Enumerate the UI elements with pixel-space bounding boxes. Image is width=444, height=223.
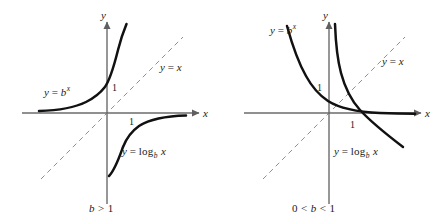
label-logarithm-fn: log	[351, 145, 366, 157]
y-axis-tick-one: 1	[317, 83, 322, 93]
panel-left-graph	[0, 0, 222, 223]
panel-caption-suffix: < 1	[317, 202, 336, 214]
panel-caption-relation: > 1	[95, 202, 114, 214]
label-logarithm: y=logbx	[122, 146, 166, 157]
label-logarithm-arg: x	[370, 145, 378, 157]
label-logarithm-op: =	[339, 145, 351, 157]
y-axis-label: y	[323, 10, 328, 21]
x-axis-tick-one: 1	[129, 117, 134, 127]
label-identity-rhs: x	[177, 61, 182, 73]
panel-caption: 0 < b < 1	[292, 203, 336, 214]
label-identity: y=x	[160, 62, 182, 73]
x-axis-tick-one: 1	[350, 120, 355, 130]
x-axis-label: x	[203, 108, 208, 119]
label-exponential-op: =	[275, 24, 287, 36]
panel-caption: b > 1	[89, 203, 114, 214]
y-axis-label: y	[101, 10, 106, 21]
label-identity: y=x	[382, 56, 404, 67]
label-identity-op: =	[387, 55, 399, 67]
label-identity-rhs: x	[399, 55, 404, 67]
label-exponential-exponent: x	[293, 22, 297, 31]
label-identity-op: =	[165, 61, 177, 73]
exponential-logarithm-figure: y=bx y=x y=logbx y x 1 1 b > 1	[0, 0, 444, 223]
label-logarithm-fn: log	[139, 145, 154, 157]
y-axis-tick-one: 1	[112, 83, 117, 93]
label-exponential-exponent: x	[67, 84, 71, 93]
label-logarithm-arg: x	[158, 145, 166, 157]
label-logarithm: y=logbx	[334, 146, 378, 157]
panel-right-graph	[222, 0, 444, 223]
panel-b-greater-than-1: y=bx y=x y=logbx y x 1 1 b > 1	[0, 0, 222, 223]
exponential-curve	[287, 26, 415, 114]
label-exponential: y=bx	[270, 25, 296, 36]
label-exponential-base: b	[287, 24, 293, 36]
panel-caption-prefix: 0 <	[292, 202, 311, 214]
logarithm-curve	[335, 24, 403, 147]
x-axis-label: x	[425, 108, 430, 119]
label-logarithm-op: =	[127, 145, 139, 157]
panel-b-between-0-and-1: y=bx y=x y=logbx y x 1 1 0 < b < 1	[222, 0, 444, 223]
label-exponential: y=bx	[44, 87, 70, 98]
label-exponential-base: b	[61, 86, 67, 98]
label-exponential-op: =	[49, 86, 61, 98]
